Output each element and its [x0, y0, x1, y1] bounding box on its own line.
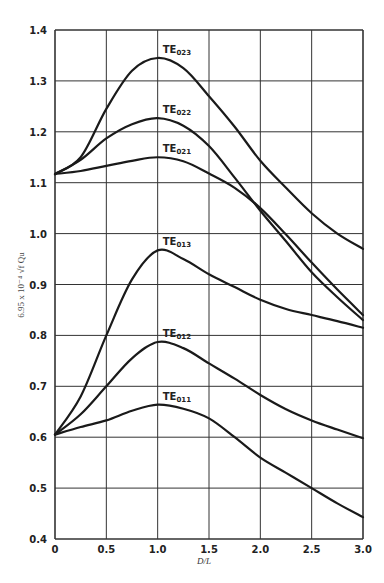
- curve-label-te023: TE023: [163, 44, 191, 57]
- x-tick-label: 2.0: [251, 544, 269, 555]
- grid: [55, 30, 363, 539]
- y-tick-label: 0.4: [29, 534, 47, 545]
- y-tick-label: 1.2: [29, 127, 47, 138]
- curve-label-te012: TE012: [163, 328, 191, 341]
- y-tick-label: 1.0: [29, 229, 47, 240]
- curve-label-te013: TE013: [163, 236, 191, 249]
- y-tick-label: 0.5: [29, 483, 47, 494]
- x-tick-label: 0.5: [97, 544, 115, 555]
- y-tick-label: 0.8: [29, 330, 47, 341]
- y-tick-label: 1.4: [29, 25, 47, 36]
- curve-label-te022: TE022: [163, 104, 191, 117]
- chart: TE023TE022TE021TE013TE012TE011 00.51.01.…: [0, 0, 384, 583]
- curve-label-te011: TE011: [163, 391, 191, 404]
- x-tick-label: 1.5: [200, 544, 218, 555]
- y-tick-label: 1.1: [29, 178, 47, 189]
- x-tick-label: 2.5: [303, 544, 321, 555]
- curve-label-te021: TE021: [163, 143, 191, 156]
- x-tick-label: 0: [52, 544, 59, 555]
- y-tick-label: 0.9: [29, 280, 47, 291]
- x-tick-labels: 00.51.01.52.02.53.0: [52, 544, 372, 555]
- y-tick-label: 1.3: [29, 76, 47, 87]
- y-axis-label: 6.95 x 10⁻⁴ √f Qu: [16, 252, 26, 318]
- y-tick-labels: 0.40.50.60.70.80.91.01.11.21.31.4: [29, 25, 47, 545]
- y-tick-label: 0.6: [29, 432, 47, 443]
- y-tick-label: 0.7: [29, 381, 47, 392]
- x-tick-label: 3.0: [354, 544, 372, 555]
- x-axis-label: D/L: [196, 556, 211, 566]
- x-tick-label: 1.0: [149, 544, 167, 555]
